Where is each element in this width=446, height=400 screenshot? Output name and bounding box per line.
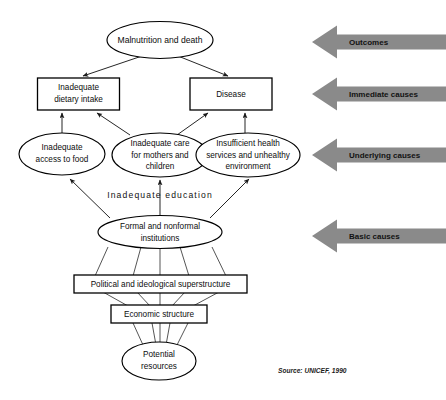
node-economic-structure[interactable]: Economic structure: [111, 305, 207, 323]
node-insufficient-health-services[interactable]: Insufficient health services and unhealt…: [196, 133, 300, 177]
band-label-outcomes: Outcomes: [349, 38, 389, 47]
node-potential-resources-label-line2: resources: [141, 362, 177, 371]
node-inadequate-care[interactable]: Inadequate care for mothers and children: [112, 133, 208, 177]
node-dietary-intake-label-line1: Inadequate: [58, 83, 99, 92]
node-dietary-intake-label-line2: dietary intake: [54, 95, 103, 104]
arrow-malnutrition-to-dietary-intake: [83, 56, 142, 76]
inadequate-education-label: Inadequate education: [107, 190, 213, 200]
node-malnutrition-and-death[interactable]: Malnutrition and death: [107, 22, 213, 59]
source-note: Source: UNICEF, 1990: [278, 367, 347, 375]
node-institutions-label-line1: Formal and nonformal: [120, 222, 200, 231]
band-arrow-underlying-causes: Underlying causes: [312, 139, 446, 172]
node-malnutrition-label: Malnutrition and death: [117, 35, 202, 45]
node-formal-and-nonformal-institutions[interactable]: Formal and nonformal institutions: [98, 216, 222, 249]
node-health-services-label-line2: services and unhealthy: [206, 151, 291, 160]
arrow-care-to-dietary-intake: [97, 113, 130, 135]
unicef-malnutrition-framework: Malnutrition and death Inadequate dietar…: [0, 0, 446, 400]
band-arrow-immediate-causes: Immediate causes: [312, 78, 446, 111]
node-superstructure-label: Political and ideological superstructure: [91, 280, 231, 289]
band-arrow-outcomes: Outcomes: [312, 26, 446, 59]
node-disease[interactable]: Disease: [190, 78, 272, 110]
arrow-institutions-to-health: [210, 179, 249, 218]
node-inadequate-dietary-intake[interactable]: Inadequate dietary intake: [38, 78, 120, 110]
band-label-underlying-causes: Underlying causes: [349, 151, 421, 160]
band-arrow-basic-causes: Basic causes: [312, 220, 446, 253]
node-potential-resources-label-line1: Potential: [143, 350, 175, 359]
node-economic-structure-label: Economic structure: [124, 310, 195, 319]
band-label-basic-causes: Basic causes: [349, 232, 400, 241]
node-care-label-line1: Inadequate care: [130, 139, 190, 148]
node-care-label-line2: for mothers and: [131, 151, 189, 160]
arrow-care-to-disease: [177, 113, 208, 135]
diagram-page: Malnutrition and death Inadequate dietar…: [0, 0, 446, 400]
arrow-malnutrition-to-disease: [178, 56, 228, 76]
node-care-label-line3: children: [146, 162, 175, 171]
node-potential-resources[interactable]: Potential resources: [122, 342, 196, 380]
node-access-to-food-label-line1: Inadequate: [42, 143, 83, 152]
band-label-immediate-causes: Immediate causes: [349, 90, 418, 99]
node-inadequate-access-to-food[interactable]: Inadequate access to food: [19, 133, 105, 175]
funnel-lines: [95, 247, 226, 345]
node-political-ideological-superstructure[interactable]: Political and ideological superstructure: [74, 275, 247, 293]
node-health-services-label-line1: Insufficient health: [216, 139, 280, 148]
node-access-to-food-label-line2: access to food: [36, 155, 89, 164]
node-health-services-label-line3: environment: [225, 162, 271, 171]
arrow-institutions-to-food: [70, 179, 110, 218]
node-disease-label: Disease: [216, 90, 246, 99]
node-institutions-label-line2: institutions: [141, 234, 180, 243]
